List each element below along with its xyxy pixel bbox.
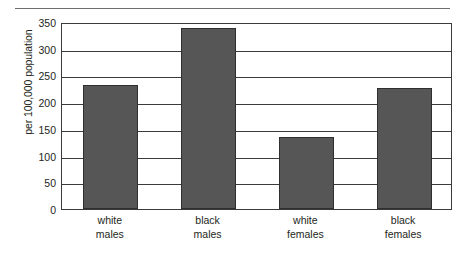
y-tick-label-100: 100 — [20, 151, 56, 162]
x-label-line: black — [354, 214, 452, 228]
x-label-line: females — [257, 228, 355, 242]
bar-white-females — [279, 137, 334, 209]
x-label-line: white — [257, 214, 355, 228]
x-label-white-females: whitefemales — [257, 214, 355, 241]
y-tick-label-200: 200 — [20, 98, 56, 109]
x-label-line: males — [61, 228, 159, 242]
top-divider-rule — [15, 8, 450, 9]
y-tick-label-350: 350 — [20, 18, 56, 29]
x-label-black-females: blackfemales — [354, 214, 452, 241]
y-axis-tick-labels: 050100150200250300350 — [20, 23, 56, 210]
x-label-line: black — [159, 214, 257, 228]
y-tick-label-50: 50 — [20, 178, 56, 189]
bar-white-males — [83, 85, 138, 209]
y-tick-label-150: 150 — [20, 125, 56, 136]
plot-area — [61, 23, 452, 210]
x-label-white-males: whitemales — [61, 214, 159, 241]
y-tick-label-0: 0 — [20, 205, 56, 216]
bar-black-males — [181, 28, 236, 209]
bar-chart-figure: per 100,000 population 05010015020025030… — [0, 0, 465, 257]
bars-layer — [62, 24, 451, 209]
bar-black-females — [377, 88, 432, 209]
y-tick-label-300: 300 — [20, 44, 56, 55]
x-axis-category-labels: whitemalesblackmaleswhitefemalesblackfem… — [61, 214, 452, 254]
y-tick-label-250: 250 — [20, 71, 56, 82]
x-label-line: males — [159, 228, 257, 242]
x-label-black-males: blackmales — [159, 214, 257, 241]
x-label-line: females — [354, 228, 452, 242]
x-label-line: white — [61, 214, 159, 228]
